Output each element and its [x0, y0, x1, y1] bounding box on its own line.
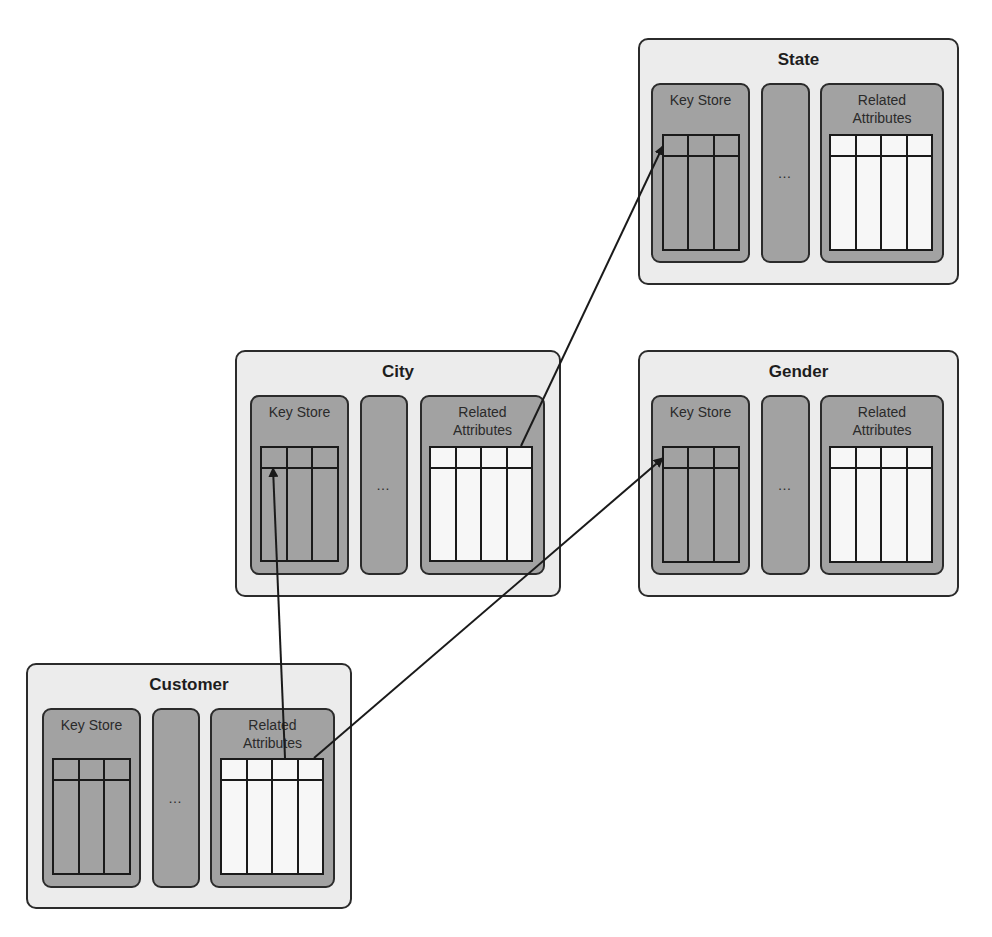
- entity-title: Customer: [28, 675, 350, 695]
- related-attributes-label: Related Attributes: [822, 403, 942, 439]
- related-attributes-table: [429, 446, 533, 562]
- related-attributes-label: Related Attributes: [822, 91, 942, 127]
- ellipsis: …: [154, 790, 198, 806]
- related-attributes-table: [220, 758, 324, 875]
- ellipsis-panel: …: [761, 83, 810, 263]
- related-attributes-table: [829, 134, 933, 251]
- ellipsis: …: [763, 165, 808, 181]
- ellipsis-panel: …: [152, 708, 200, 888]
- ellipsis-panel: …: [360, 395, 408, 575]
- related-attributes-table: [829, 446, 933, 563]
- key-store-label: Key Store: [653, 403, 748, 421]
- related-attributes-label: Related Attributes: [422, 403, 543, 439]
- entity-title: Gender: [640, 362, 957, 382]
- key-store-label: Key Store: [44, 716, 139, 734]
- key-store-table: [662, 134, 740, 251]
- entity-title: State: [640, 50, 957, 70]
- related-attributes-label: Related Attributes: [212, 716, 333, 752]
- key-store-label: Key Store: [653, 91, 748, 109]
- ellipsis: …: [763, 477, 808, 493]
- ellipsis-panel: …: [761, 395, 810, 575]
- key-store-table: [52, 758, 131, 875]
- key-store-table: [260, 446, 339, 562]
- key-store-label: Key Store: [252, 403, 347, 421]
- ellipsis: …: [362, 477, 406, 493]
- key-store-table: [662, 446, 740, 563]
- entity-title: City: [237, 362, 559, 382]
